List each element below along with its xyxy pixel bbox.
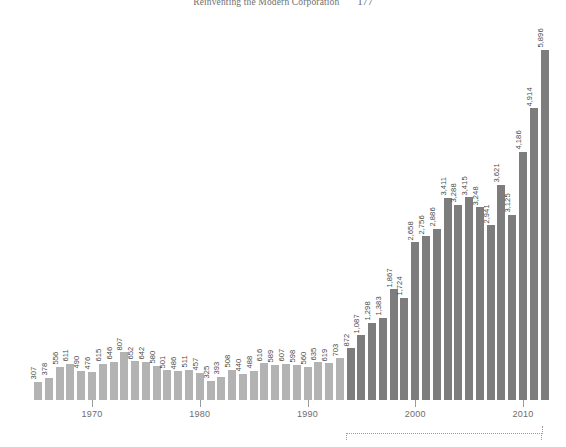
bar-value-label: 490	[74, 356, 82, 369]
bar-1996: 1,298	[368, 323, 376, 400]
bar-value-label: 3,248	[472, 186, 480, 205]
bar-value-label: 488	[246, 356, 254, 369]
bar-value-label: 2,756	[418, 215, 426, 234]
x-tick-label-1970: 1970	[82, 409, 103, 419]
bar-value-label: 440	[235, 359, 243, 372]
bar-1995: 1,087	[357, 335, 365, 400]
bar-2004: 3,288	[454, 205, 462, 400]
bar-value-label: 556	[52, 352, 60, 365]
bar-value-label: 3,415	[462, 176, 470, 195]
bar-value-label: 615	[95, 349, 103, 362]
bar-value-label: 3,411	[440, 177, 448, 196]
bar-value-label: 580	[149, 351, 157, 364]
bar-value-label: 652	[128, 346, 136, 359]
bar-1975: 642	[142, 362, 150, 400]
bar-value-label: 4,914	[526, 87, 534, 106]
bar-value-label: 560	[300, 352, 308, 365]
bar-value-label: 476	[84, 357, 92, 370]
bar-1968: 611	[66, 364, 74, 400]
bar-1992: 619	[325, 363, 333, 400]
bar-2006: 3,248	[476, 207, 484, 400]
bar-value-label: 589	[268, 350, 276, 363]
bar-1990: 560	[304, 367, 312, 400]
bar-value-label: 2,941	[483, 204, 491, 223]
bar-value-label: 1,383	[375, 297, 383, 316]
bar-1994: 872	[347, 348, 355, 400]
bar-1998: 1,867	[390, 289, 398, 400]
bar-value-label: 1,867	[386, 268, 394, 287]
bar-1982: 393	[217, 377, 225, 400]
bar-1989: 598	[293, 365, 301, 400]
bar-1981: 325	[207, 381, 215, 400]
bar-value-label: 646	[106, 347, 114, 360]
bar-1969: 490	[77, 371, 85, 400]
bar-value-label: 5,896	[537, 29, 545, 48]
x-tick-1980	[200, 400, 201, 407]
x-tick-2010	[523, 400, 524, 407]
bar-value-label: 642	[138, 347, 146, 360]
bar-value-label: 3,621	[494, 164, 502, 183]
bar-1974: 652	[131, 361, 139, 400]
page-canvas: Reinventing the Modern Corporation177 30…	[0, 0, 566, 447]
bar-value-label: 807	[117, 337, 125, 350]
bar-1976: 580	[153, 366, 161, 400]
bar-value-label: 1,724	[397, 276, 405, 295]
bar-value-label: 457	[192, 358, 200, 371]
x-tick-label-2010: 2010	[513, 409, 534, 419]
bar-1985: 488	[250, 371, 258, 400]
x-tick-2000	[415, 400, 416, 407]
bar-2000: 2,658	[411, 242, 419, 400]
bar-1978: 486	[174, 371, 182, 400]
bar-2008: 3,621	[497, 185, 505, 400]
bracket-stem	[542, 426, 543, 434]
bar-2003: 3,411	[444, 198, 452, 400]
bar-2005: 3,415	[465, 197, 473, 400]
bar-value-label: 325	[203, 366, 211, 379]
bar-2001: 2,756	[422, 236, 430, 400]
bar-2012: 5,896	[541, 50, 549, 400]
bar-1979: 511	[185, 370, 193, 400]
bar-value-label: 508	[224, 355, 232, 368]
bar-value-label: 3,125	[505, 193, 513, 212]
bar-1987: 589	[271, 365, 279, 400]
bar-value-label: 598	[289, 350, 297, 363]
x-tick-1990	[308, 400, 309, 407]
header-title: Reinventing the Modern Corporation	[193, 0, 339, 7]
page-number: 177	[357, 0, 372, 7]
bar-1999: 1,724	[400, 298, 408, 400]
bar-value-label: 872	[343, 333, 351, 346]
bar-value-label: 1,087	[354, 314, 362, 333]
bar-1993: 703	[336, 358, 344, 400]
x-tick-label-1980: 1980	[189, 409, 210, 419]
bar-1967: 556	[56, 367, 64, 400]
x-tick-label-2000: 2000	[405, 409, 426, 419]
bar-value-label: 501	[160, 355, 168, 368]
running-header: Reinventing the Modern Corporation177	[0, 0, 566, 7]
bar-value-label: 511	[181, 355, 189, 367]
bar-value-label: 607	[278, 349, 286, 362]
bar-value-label: 611	[63, 349, 71, 361]
bar-2009: 3,125	[508, 215, 516, 401]
bar-chart-plot-area: 3073785566114904766156468076526425805014…	[0, 14, 566, 400]
bar-1991: 635	[314, 362, 322, 400]
bar-1966: 378	[45, 378, 53, 400]
bar-1983: 508	[228, 370, 236, 400]
bar-value-label: 486	[171, 356, 179, 369]
bar-1965: 307	[34, 382, 42, 400]
x-tick-label-1990: 1990	[297, 409, 318, 419]
bar-value-label: 378	[41, 363, 49, 376]
x-axis: 19701980199020002010	[0, 400, 566, 447]
bar-value-label: 2,658	[408, 221, 416, 240]
bar-value-label: 616	[257, 349, 265, 362]
bar-2002: 2,886	[433, 229, 441, 400]
dotted-bracket-annotation	[346, 433, 542, 440]
bar-value-label: 393	[214, 362, 222, 375]
bar-1977: 501	[163, 370, 171, 400]
bar-value-label: 619	[321, 348, 329, 361]
bar-value-label: 635	[311, 347, 319, 360]
bar-2010: 4,186	[519, 152, 527, 400]
bar-1972: 646	[110, 362, 118, 400]
bar-1970: 476	[88, 372, 96, 400]
bar-2007: 2,941	[487, 225, 495, 400]
bar-1986: 616	[260, 363, 268, 400]
